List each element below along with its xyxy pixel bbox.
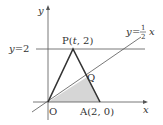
x-axis-label: x — [143, 104, 149, 115]
svg-text:1: 1 — [141, 24, 145, 32]
point-A-label: A(2, 0) — [79, 106, 114, 117]
svg-text:2: 2 — [141, 33, 145, 41]
y-axis-arrow-icon — [46, 5, 50, 10]
point-P-label: P(t, 2) — [62, 35, 93, 46]
svg-text:y: y — [125, 26, 132, 37]
line-half-x-label: y = 1 2 x — [125, 24, 155, 41]
line-y2-label: y=2 — [8, 43, 29, 54]
y-axis-label: y — [37, 5, 44, 16]
coordinate-diagram: y x O y=2 P(t, 2) Q A(2, 0) y = 1 2 x — [0, 0, 163, 125]
svg-text:=: = — [132, 26, 140, 37]
svg-text:x: x — [149, 26, 155, 37]
point-Q-label: Q — [87, 72, 95, 83]
origin-label: O — [49, 106, 57, 117]
